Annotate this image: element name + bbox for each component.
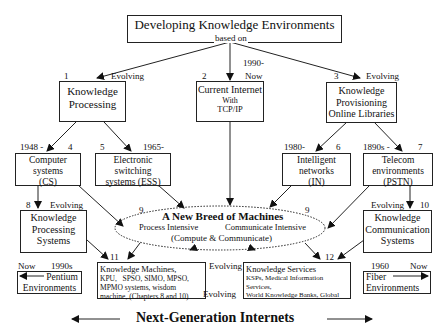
knowledge-communication-systems-box: Knowledge Communication Systems — [363, 210, 432, 253]
line: Knowledge — [60, 85, 125, 98]
computer-systems-box: Computer systems (CS) — [15, 153, 81, 186]
line: Pentium — [18, 272, 81, 283]
node-8-tag: Evolving — [50, 200, 83, 210]
node-4-number: 4 — [68, 142, 73, 152]
pentium-from: Now — [18, 261, 36, 271]
node-9-number-right: 9 — [305, 205, 310, 215]
line: environments — [364, 166, 432, 177]
line: (PSTN) — [364, 177, 432, 188]
line: Systems — [364, 235, 431, 247]
line: systems — [16, 166, 80, 177]
node-2-tag-top: 1990- — [243, 58, 264, 68]
line: machine, (Chapters 8 and 10) — [100, 292, 205, 301]
node-5-year: 1965- — [143, 142, 164, 152]
node-4-year: 1948 - — [20, 142, 43, 152]
node-6-number: 6 — [336, 142, 341, 152]
node-1-tag: Evolving — [111, 71, 144, 81]
center-left-label: Process Intensive — [139, 222, 198, 232]
line: Knowledge — [21, 212, 86, 224]
telecom-environments-box: Telecom environments (PSTN) — [363, 153, 433, 186]
arrow-left-icon — [72, 314, 73, 315]
node-7-number: 7 — [418, 142, 423, 152]
line: Knowledge Machines, — [100, 264, 205, 274]
evolving-label-top: Evolving — [209, 261, 242, 271]
fiber-from: 1960 — [371, 261, 389, 271]
node-8-number: 8 — [26, 200, 31, 210]
line: Knowledge — [327, 85, 396, 97]
line: Communication — [364, 224, 431, 236]
node-10-tag: Evolving — [371, 200, 404, 210]
line: Current Internet — [197, 84, 263, 96]
electronic-switching-box: Electronic switching systems (ESS) — [95, 153, 171, 186]
line: Environments — [366, 283, 430, 294]
line: networks — [283, 166, 350, 177]
line: Computer — [16, 155, 80, 166]
title-sub: based on — [214, 33, 248, 43]
line: Intelligent — [283, 155, 350, 166]
arrow-right-icon — [372, 314, 373, 315]
evolving-label-bottom: Evolving — [203, 289, 236, 299]
center-right-label: Communicate Intensive — [225, 222, 306, 232]
line: (IN) — [283, 177, 350, 188]
node-6-year: 1980- — [284, 142, 305, 152]
center-bottom-label: (Compute & Communicate) — [171, 233, 272, 243]
line: Electronic — [96, 155, 170, 166]
line: Systems — [21, 235, 86, 247]
line: switching — [96, 166, 170, 177]
pentium-to: 1990s — [51, 261, 73, 271]
knowledge-processing-box: Knowledge Processing — [59, 81, 126, 122]
line: KPU, SPSO, SIMO, MPSO, — [100, 274, 205, 283]
node-2-tag: Now — [245, 71, 263, 81]
line: (CS) — [16, 177, 80, 188]
line: Provisioning — [327, 97, 396, 109]
fiber-environments-box: Fiber Environments — [363, 271, 431, 294]
node-10-number: 10 — [420, 200, 429, 210]
line: Fiber — [366, 272, 430, 283]
title-main: Developing Knowledge Environments — [128, 18, 341, 33]
knowledge-processing-systems-box: Knowledge Processing Systems — [20, 210, 87, 253]
node-12-number: 12 — [325, 252, 334, 262]
line: Knowledge Services — [246, 264, 350, 274]
line: systems (ESS) — [96, 177, 170, 188]
line: World Knowledge Banks, Global — [246, 291, 350, 299]
line: Processing — [60, 98, 125, 111]
line: MPMO systems, wisdom — [100, 283, 205, 292]
knowledge-machines-box: Knowledge Machines, KPU, SPSO, SIMO, MPS… — [97, 262, 206, 299]
line: Knowledge — [364, 212, 431, 224]
line: Online Libraries — [327, 108, 396, 120]
node-11-number: 11 — [110, 252, 119, 262]
intelligent-networks-box: Intelligent networks (IN) — [282, 153, 351, 186]
line: Telecom — [364, 155, 432, 166]
node-9-number-left: 9 — [139, 205, 144, 215]
line: Environments — [18, 283, 81, 294]
node-7-year: 1890s - — [363, 142, 390, 152]
line: Processing — [21, 224, 86, 236]
node-3-number: 3 — [334, 71, 339, 81]
footer-title: Next-Generation Internets — [136, 310, 294, 326]
center-title: A New Breed of Machines — [162, 210, 283, 222]
node-1-number: 1 — [64, 71, 69, 81]
knowledge-services-box: Knowledge Services KSPs, Medical Informa… — [243, 262, 351, 299]
line: KSPs, Medical Information Services, — [246, 274, 350, 291]
node-2-number: 2 — [202, 71, 207, 81]
node-3-tag: Evolving — [366, 71, 399, 81]
line: TCP/IP — [197, 105, 263, 115]
current-internet-box: Current Internet With TCP/IP — [196, 81, 264, 122]
knowledge-provisioning-box: Knowledge Provisioning Online Libraries — [326, 82, 397, 123]
node-5-number: 5 — [100, 142, 105, 152]
fiber-to: Now — [410, 261, 428, 271]
pentium-environments-box: Pentium Environments — [17, 271, 82, 294]
